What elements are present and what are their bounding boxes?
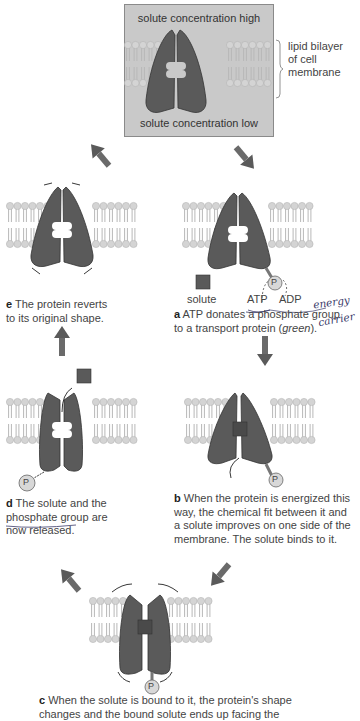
caption-b: b When the protein is energized this way… [174, 492, 351, 546]
caption-d-line3: now released. [6, 524, 75, 536]
caption-b-letter: b [174, 492, 181, 504]
caption-e-line2: to its original shape. [6, 312, 104, 324]
arrow-top-to-a [230, 142, 260, 174]
solute-label: solute [187, 293, 216, 305]
caption-a-line2: to a transport protein ( [174, 322, 282, 334]
bracket-label-line3: membrane [288, 66, 343, 79]
top-transport-protein [146, 30, 206, 113]
bracket-label-line2: of cell [288, 53, 343, 66]
caption-c: c When the solute is bound to it, the pr… [39, 694, 292, 721]
phosphate-b: P [272, 474, 278, 484]
atp-label: ATP [247, 293, 268, 305]
caption-a-line1: ATP donates a phosphate group [180, 308, 340, 320]
protein-e [31, 183, 93, 274]
bracket-label: lipid bilayer of cell membrane [288, 40, 343, 79]
caption-a: a ATP donates a phosphate group to a tra… [174, 308, 340, 335]
phosphate-c: P [148, 681, 154, 691]
caption-e-line1: The protein reverts [12, 298, 107, 310]
phosphate-a: P [271, 277, 277, 287]
caption-a-end: ). [310, 322, 317, 334]
caption-a-italic: green [282, 322, 310, 334]
caption-c-line1: When the solute is bound to it, the prot… [45, 694, 292, 706]
caption-b-line3: a solute improves on one side of the [174, 519, 351, 531]
caption-b-line4: membrane. The solute binds to it. [174, 533, 337, 545]
arrow-c-to-d [55, 564, 85, 596]
caption-b-line1: When the protein is energized this [181, 492, 350, 504]
caption-d: d The solute and the phosphate group are… [6, 497, 108, 538]
caption-c-line2: changes and the bound solute ends up fac… [39, 708, 279, 720]
caption-d-letter: d [6, 497, 13, 509]
phosphate-d: P [23, 477, 29, 487]
caption-d-line1: The solute and the [13, 497, 107, 509]
arrow-b-to-c [205, 559, 235, 591]
caption-b-line2: way, the chemical fit between it and [174, 506, 347, 518]
caption-d-line2-end: are [89, 511, 108, 523]
adp-label: ADP [279, 293, 302, 305]
bracket-label-line1: lipid bilayer [288, 40, 343, 53]
caption-e: e The protein reverts to its original sh… [6, 298, 107, 325]
arrow-d-to-e [54, 326, 70, 356]
arrow-e-to-top [85, 139, 115, 171]
caption-d-line2: phosphate group [6, 511, 89, 523]
arrow-a-to-b [257, 336, 273, 366]
